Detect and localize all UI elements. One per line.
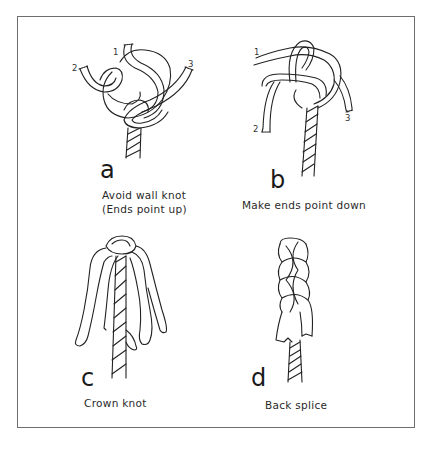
panel-b-strand-label-1: 1: [254, 48, 259, 57]
panel-b-letter: b: [270, 168, 285, 192]
panel-d-letter: d: [251, 366, 266, 390]
panel-a-drawing: [79, 44, 193, 158]
panel-a-strand-label-3: 3: [188, 60, 193, 69]
panel-b-strand-label-2: 2: [253, 125, 258, 134]
panel-c-drawing: [76, 236, 167, 378]
panel-b-strand-label-3: 3: [345, 114, 350, 123]
knot-illustrations: [0, 0, 439, 450]
panel-a-caption-line1: Avoid wall knot: [102, 188, 186, 202]
panel-a-letter: a: [100, 158, 115, 182]
panel-c-caption: Crown knot: [84, 396, 147, 410]
panel-d-drawing: [276, 238, 313, 382]
panel-b-drawing: [254, 41, 353, 176]
panel-b-caption: Make ends point down: [242, 198, 366, 212]
panel-c-letter: c: [81, 366, 94, 390]
panel-a-strand-label-2: 2: [72, 64, 77, 73]
panel-d-caption: Back splice: [265, 398, 327, 412]
panel-a-strand-label-1: 1: [113, 48, 118, 57]
panel-a-caption-line2: (Ends point up): [102, 202, 187, 216]
